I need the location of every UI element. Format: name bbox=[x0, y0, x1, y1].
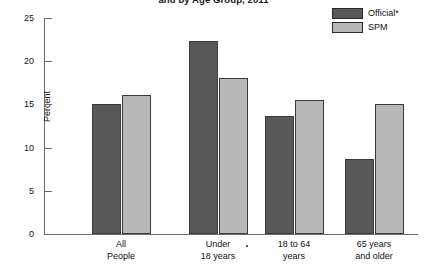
y-tick-mark bbox=[45, 148, 52, 149]
x-axis-label: 18 to 64years bbox=[278, 239, 311, 262]
x-axis-label: AllPeople bbox=[107, 239, 135, 262]
stray-mark bbox=[246, 245, 248, 247]
y-tick-mark bbox=[45, 61, 52, 62]
x-axis-label-line: 18 years bbox=[201, 251, 236, 263]
y-tick-label: 15 bbox=[24, 99, 34, 109]
y-tick-label: 25 bbox=[24, 13, 34, 23]
bar-spm bbox=[219, 78, 248, 234]
bar-spm bbox=[295, 100, 324, 234]
bar-spm bbox=[375, 104, 404, 234]
y-tick-mark bbox=[45, 191, 52, 192]
bar-official bbox=[265, 116, 294, 234]
y-axis-title: Percent bbox=[42, 91, 52, 122]
y-tick-label: 5 bbox=[29, 186, 34, 196]
x-axis-label-line: and older bbox=[355, 251, 393, 263]
plot-area: Percent 0510152025 bbox=[44, 18, 415, 234]
x-axis-label-line: Under bbox=[201, 239, 236, 251]
bar-spm bbox=[122, 95, 151, 234]
x-axis-label-line: 65 years bbox=[355, 239, 393, 251]
y-tick-mark bbox=[45, 104, 52, 105]
x-axis-label: 65 yearsand older bbox=[355, 239, 393, 262]
y-axis-line bbox=[44, 18, 45, 234]
y-tick-mark bbox=[45, 18, 52, 19]
x-axis-label-line: 18 to 64 bbox=[278, 239, 311, 251]
bar-official bbox=[92, 104, 121, 234]
x-axis-label-line: years bbox=[278, 251, 311, 263]
y-tick-label: 0 bbox=[29, 229, 34, 239]
y-tick-label: 20 bbox=[24, 56, 34, 66]
x-axis-label-line: All bbox=[107, 239, 135, 251]
bar-official bbox=[345, 159, 374, 234]
x-axis-line bbox=[44, 234, 418, 235]
x-axis-label-line: People bbox=[107, 251, 135, 263]
bar-official bbox=[189, 41, 218, 234]
chart-title: and by Age Group, 2011 bbox=[0, 0, 427, 5]
y-tick-label: 10 bbox=[24, 143, 34, 153]
x-axis-label: Under18 years bbox=[201, 239, 236, 262]
